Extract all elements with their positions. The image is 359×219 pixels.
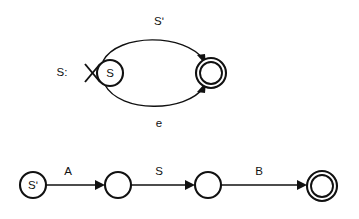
diagram-canvas: S: Sʹ e S [0,0,359,219]
top-arc-transition: Sʹ [103,15,206,65]
b-state-0: Sʹ [20,172,46,198]
s-state-label: S [106,67,114,79]
bottom-arc-transition: e [105,82,206,129]
b-accept-state [307,171,337,201]
edge-b: B [221,165,307,190]
arrowhead-edge-s [185,180,195,190]
arrowhead-edge-a [95,180,105,190]
edge-a: A [46,165,105,190]
edge-a-label: A [64,165,72,177]
b-state-1 [105,172,131,198]
edge-b-label: B [255,165,263,177]
top-accept-state [196,58,226,88]
group-label-s: S: [57,66,68,78]
bottom-automaton: A S B Sʹ [20,165,337,201]
arrowhead-edge-b [297,180,307,190]
top-arc-label: Sʹ [154,15,164,27]
bottom-arc-label: e [156,117,162,129]
b-state-2 [195,172,221,198]
automata-figure: S: Sʹ e S [0,0,359,219]
top-automaton: S: Sʹ e S [57,15,226,129]
b-state-0-label: Sʹ [28,179,38,191]
s-state: S [97,60,123,86]
edge-s-label: S [155,165,163,177]
edge-s: S [131,165,195,190]
